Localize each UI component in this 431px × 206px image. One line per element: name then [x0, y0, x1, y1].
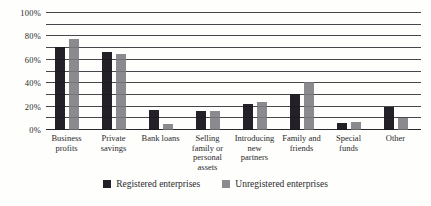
bar-series-unregistered — [116, 54, 126, 130]
legend-label: Unregistered enterprises — [235, 179, 328, 189]
bars-area — [43, 13, 419, 130]
legend-item: Registered enterprises — [103, 179, 200, 189]
category-label: Private savings — [90, 134, 137, 172]
y-tick-label: 0% — [0, 125, 41, 135]
bar-group — [231, 13, 278, 130]
bar-series-unregistered — [163, 124, 173, 130]
bar-series-unregistered — [351, 122, 361, 130]
y-tick-label: 80% — [0, 31, 41, 41]
category-label: Other — [372, 134, 419, 172]
bar-series-unregistered — [398, 118, 408, 130]
bar-series-unregistered — [304, 82, 314, 130]
bar-series-registered — [196, 111, 206, 130]
category-label: Selling family or personal assets — [184, 134, 231, 172]
category-label: Family and friends — [278, 134, 325, 172]
bar-series-unregistered — [210, 111, 220, 130]
bar-group — [137, 13, 184, 130]
bar-group — [372, 13, 419, 130]
bar-chart: 0%20%40%60%80%100% Business profitsPriva… — [0, 0, 431, 206]
category-label: Bank loans — [137, 134, 184, 172]
y-tick-label: 60% — [0, 55, 41, 65]
x-axis-labels: Business profitsPrivate savingsBank loan… — [43, 134, 419, 172]
legend-item: Unregistered enterprises — [222, 179, 328, 189]
y-tick-label: 20% — [0, 102, 41, 112]
bar-series-unregistered — [257, 102, 267, 130]
bar-series-registered — [149, 110, 159, 130]
y-tick-label: 100% — [0, 8, 41, 18]
bar-group — [43, 13, 90, 130]
y-tick-label: 40% — [0, 78, 41, 88]
bar-group — [278, 13, 325, 130]
legend-label: Registered enterprises — [116, 179, 200, 189]
bar-group — [325, 13, 372, 130]
bar-series-registered — [384, 107, 394, 130]
bar-series-unregistered — [69, 39, 79, 130]
legend-swatch-icon — [222, 180, 230, 188]
bar-series-registered — [243, 104, 253, 130]
bar-series-registered — [55, 47, 65, 130]
legend: Registered enterprisesUnregistered enter… — [0, 179, 431, 189]
bar-series-registered — [290, 94, 300, 130]
category-label: Business profits — [43, 134, 90, 172]
legend-swatch-icon — [103, 180, 111, 188]
bar-series-registered — [337, 123, 347, 130]
bar-group — [90, 13, 137, 130]
bar-series-registered — [102, 52, 112, 130]
bar-group — [184, 13, 231, 130]
category-label: Introducing new partners — [231, 134, 278, 172]
category-label: Special funds — [325, 134, 372, 172]
